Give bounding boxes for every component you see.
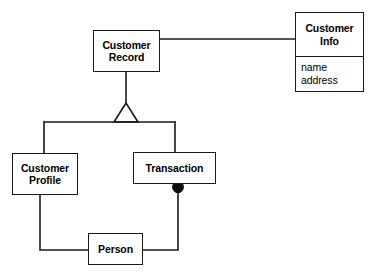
connector-transaction-to-person: [143, 187, 178, 250]
class-name-transaction: Transaction: [146, 162, 204, 175]
class-attributes-customer-info: name address: [296, 57, 363, 91]
class-name-customer-record: Customer Record: [102, 39, 150, 64]
generalization-triangle-icon: [114, 103, 138, 122]
class-name-customer-profile: Customer Profile: [21, 162, 69, 187]
attribute-address: address: [301, 74, 338, 87]
connector-customer-profile-to-person: [40, 195, 88, 250]
uml-class-diagram: Customer Record Customer Info name addre…: [0, 0, 374, 274]
class-name-customer-info: Customer Info: [296, 13, 363, 57]
class-name-person: Person: [98, 243, 133, 256]
attribute-name: name: [301, 61, 327, 74]
class-box-transaction[interactable]: Transaction: [133, 152, 216, 184]
class-box-person[interactable]: Person: [88, 233, 143, 265]
class-box-customer-record[interactable]: Customer Record: [93, 30, 160, 72]
class-box-customer-info[interactable]: Customer Info name address: [295, 12, 364, 92]
class-box-customer-profile[interactable]: Customer Profile: [12, 153, 78, 195]
